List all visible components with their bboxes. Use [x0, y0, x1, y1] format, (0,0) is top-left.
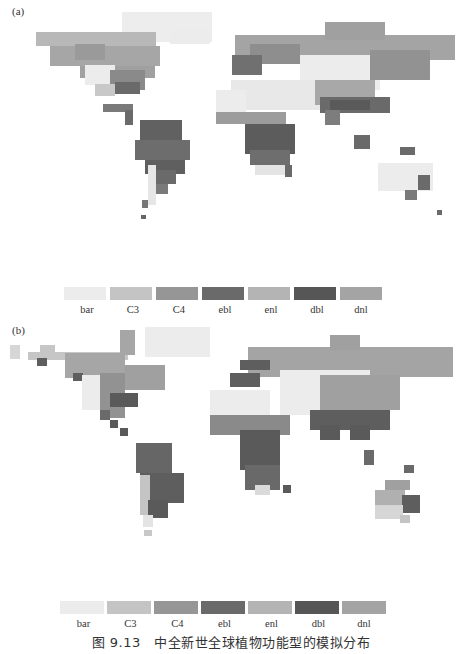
- legend-item-c3: C3: [107, 601, 154, 629]
- legend-item-bar: bar: [60, 601, 107, 629]
- legend-item-dbl: dbl: [295, 601, 342, 629]
- legend-item-c4: C4: [156, 287, 202, 315]
- legend-item-ebl: ebl: [202, 287, 248, 315]
- legend-item-bar: bar: [64, 287, 110, 315]
- legend-item-enl: enl: [248, 601, 295, 629]
- map-panel-a: [0, 0, 462, 270]
- legend-item-c3: C3: [110, 287, 156, 315]
- legend-item-dnl: dnl: [342, 601, 386, 629]
- legend-swatch: [294, 287, 336, 300]
- map-panel-b: [0, 325, 462, 555]
- legend-item-dnl: dnl: [340, 287, 382, 315]
- figure-caption: 图 9.13 中全新世全球植物功能型的模拟分布: [0, 632, 462, 651]
- legend-panel-a: bar C3 C4 ebl enl dbl dnl: [64, 287, 382, 315]
- legend-swatch: [110, 287, 152, 300]
- legend-swatch: [342, 601, 386, 614]
- legend-panel-b: bar C3 C4 ebl enl dbl dnl: [60, 601, 386, 629]
- legend-swatch: [202, 287, 244, 300]
- legend-swatch: [248, 601, 292, 614]
- legend-swatch: [248, 287, 290, 300]
- legend-swatch: [295, 601, 339, 614]
- legend-swatch: [154, 601, 198, 614]
- legend-swatch: [107, 601, 151, 614]
- legend-item-dbl: dbl: [294, 287, 340, 315]
- legend-swatch: [156, 287, 198, 300]
- legend-swatch: [340, 287, 382, 300]
- legend-swatch: [64, 287, 106, 300]
- legend-item-c4: C4: [154, 601, 201, 629]
- legend-swatch: [60, 601, 104, 614]
- legend-swatch: [201, 601, 245, 614]
- legend-item-ebl: ebl: [201, 601, 248, 629]
- legend-item-enl: enl: [248, 287, 294, 315]
